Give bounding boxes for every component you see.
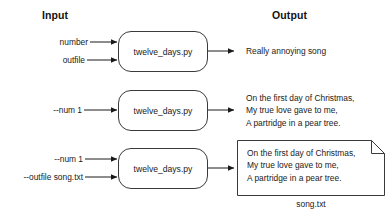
input-column-heading: Input [42,9,68,21]
row-3-input-arrows [85,159,117,177]
row-3-input-label-2: --outfile song.txt [4,172,83,182]
row-1-output-text: Really annoying song [246,45,326,57]
output-file-caption: song.txt [237,199,385,209]
row-2-output-line-3: A partridge in a pear tree. [246,117,354,129]
row-1-input-arrows [87,42,117,60]
row-3-input-label-1: --num 1 [14,154,83,164]
row-2-output-line-2: My true love gave to me, [246,104,354,116]
row-3-process-label: twelve_days.py [134,164,193,174]
row-1-process-box: twelve_days.py [118,31,208,72]
row-2-output-line-1: On the first day of Christmas, [246,92,354,104]
output-column-heading: Output [272,9,307,21]
row-3-output-line-1: On the first day of Christmas, [247,147,355,159]
row-1-output-line-1: Really annoying song [246,45,326,57]
row-1-input-label-2: outfile [18,55,85,65]
row-2-process-box: twelve_days.py [118,90,208,131]
row-3-output-text: On the first day of Christmas, My true l… [247,147,355,184]
row-3-output-line-2: My true love gave to me, [247,159,355,171]
row-2-process-label: twelve_days.py [134,106,193,116]
row-2-output-text: On the first day of Christmas, My true l… [246,92,354,129]
row-3-process-box: twelve_days.py [118,148,208,189]
row-2-input-label-1: --num 1 [14,105,82,115]
row-3-output-line-3: A partridge in a pear tree. [247,172,355,184]
row-1-input-label-1: number [18,37,88,47]
pipeline-diagram: Input Output [0,0,390,221]
row-1-process-label: twelve_days.py [134,47,193,57]
